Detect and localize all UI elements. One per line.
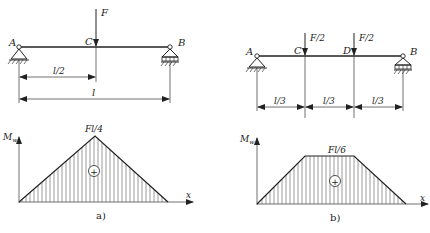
caption-a: a)	[96, 210, 106, 221]
moment-diagram-a: Mw x Fl/4 +	[2, 124, 193, 203]
dimension-label: l/3	[323, 96, 335, 106]
point-d-label: D	[342, 45, 351, 56]
moment-axis-label: Mw	[239, 134, 255, 145]
force-c-label: F/2	[309, 33, 325, 43]
moment-diagram-b: Mw x Fl/6 +	[239, 134, 428, 205]
moment-axis-label: Mw	[2, 132, 18, 143]
svg-text:+: +	[331, 177, 339, 187]
dimension-half-label: l/2	[53, 66, 65, 76]
diagram-a: A B F C l/2 l	[2, 7, 193, 221]
peak-label: Fl/6	[327, 145, 346, 155]
point-c-label: C	[85, 36, 93, 47]
svg-text:+: +	[90, 167, 98, 177]
diagram-b: A B F/2 C F/2 D l/3	[239, 33, 428, 223]
bending-moment-figure: A B F C l/2 l	[0, 0, 430, 233]
point-a-label: A	[8, 37, 16, 48]
peak-label: Fl/4	[84, 124, 103, 134]
point-b-label: B	[409, 46, 417, 57]
x-axis-label: x	[186, 190, 191, 200]
dimension-full-label: l	[92, 87, 95, 98]
force-label: F	[100, 7, 109, 18]
caption-b: b)	[330, 212, 340, 223]
dimension-label: l/3	[372, 96, 384, 106]
force-d-label: F/2	[358, 33, 374, 43]
x-axis-label: x	[420, 193, 425, 203]
dimension-label: l/3	[274, 96, 286, 106]
point-a-label: A	[245, 46, 253, 57]
point-b-label: B	[177, 37, 185, 48]
point-c-label: C	[294, 45, 302, 56]
